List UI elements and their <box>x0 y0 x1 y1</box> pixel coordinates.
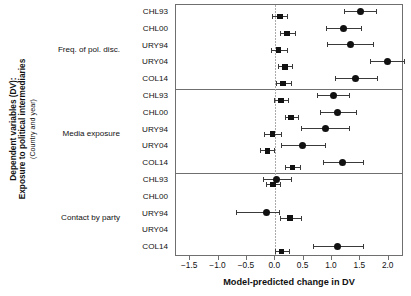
confidence-interval-cap <box>280 182 281 187</box>
row-label-ury04: URY04 <box>120 141 168 150</box>
confidence-interval-cap <box>373 42 374 47</box>
confidence-interval-cap <box>325 143 326 148</box>
panel-label-media-exposure: Media exposure <box>46 129 120 138</box>
forest-plot-figure: Dependent variables (DV): Exposure to po… <box>0 0 411 296</box>
x-axis-tick-label: 1.0 <box>319 260 343 270</box>
x-axis-tick-label: 0.0 <box>262 260 286 270</box>
row-label-chl93: CHL93 <box>120 175 168 184</box>
confidence-interval-cap <box>278 64 279 69</box>
estimate-marker-square <box>276 47 282 53</box>
x-axis-tick-label: −1.0 <box>206 260 230 270</box>
confidence-interval-cap <box>287 48 288 53</box>
estimate-marker-square <box>288 115 294 121</box>
estimate-marker-circle <box>340 25 347 32</box>
confidence-interval-cap <box>263 177 264 182</box>
estimate-marker-circle <box>334 109 341 116</box>
confidence-interval-cap <box>279 210 280 215</box>
confidence-interval-cap <box>301 126 302 131</box>
confidence-interval-cap <box>266 182 267 187</box>
row-label-ury94: URY94 <box>120 41 168 50</box>
row-label-col14: COL14 <box>120 158 168 167</box>
confidence-interval-cap <box>285 165 286 170</box>
confidence-interval-cap <box>295 31 296 36</box>
row-label-column: CHL93CHL00URY94URY04COL14CHL93CHL00URY94… <box>120 0 172 258</box>
x-axis-tick-label: −1.5 <box>177 260 201 270</box>
estimate-marker-circle <box>352 75 359 82</box>
confidence-interval-cap <box>363 160 364 165</box>
estimate-marker-square <box>279 249 285 255</box>
confidence-interval-cap <box>313 244 314 249</box>
estimate-marker-square <box>277 14 283 20</box>
estimate-marker-circle <box>334 243 341 250</box>
confidence-interval-cap <box>274 148 275 153</box>
panel-label-freq-of-pol-disc: Freq. of pol. disc. <box>46 45 120 54</box>
x-axis-tick-label: 0.5 <box>291 260 315 270</box>
confidence-interval-cap <box>291 81 292 86</box>
confidence-interval-cap <box>298 115 299 120</box>
row-label-chl93: CHL93 <box>120 7 168 16</box>
plot-area <box>175 4 403 256</box>
confidence-interval-cap <box>370 59 371 64</box>
confidence-interval-cap <box>335 76 336 81</box>
x-axis-tick-label: 1.5 <box>347 260 371 270</box>
x-axis-caption-clipped <box>175 290 403 296</box>
confidence-interval-cap <box>317 93 318 98</box>
row-label-chl00: CHL00 <box>120 192 168 201</box>
estimate-marker-square <box>290 165 296 171</box>
confidence-interval-cap <box>291 177 292 182</box>
confidence-interval-cap <box>363 244 364 249</box>
estimate-marker-square <box>280 81 286 87</box>
x-axis-title: Model-predicted change in DV <box>175 277 403 287</box>
x-axis: −1.5−1.0−0.50.00.51.01.52.0 <box>175 256 403 262</box>
confidence-interval-cap <box>275 249 276 254</box>
estimate-marker-circle <box>357 8 364 15</box>
estimate-marker-square <box>270 131 276 137</box>
x-axis-tick-label: 2.0 <box>376 260 400 270</box>
estimate-marker-square <box>278 98 284 104</box>
confidence-interval-cap <box>344 9 345 14</box>
estimate-marker-circle <box>384 58 391 65</box>
y-axis-title-line2: Exposure to political intermediaries <box>18 59 27 200</box>
confidence-interval-cap <box>274 98 275 103</box>
confidence-interval-cap <box>285 115 286 120</box>
confidence-interval-cap <box>326 26 327 31</box>
y-axis-title: Dependent variables (DV): Exposure to po… <box>0 0 46 258</box>
confidence-interval-cap <box>356 110 357 115</box>
x-axis-tick-label: −0.5 <box>234 260 258 270</box>
estimate-marker-circle <box>347 41 354 48</box>
confidence-interval-cap <box>281 143 282 148</box>
confidence-interval-cap <box>327 42 328 47</box>
confidence-interval-cap <box>323 160 324 165</box>
confidence-interval-cap <box>361 26 362 31</box>
confidence-interval-cap <box>349 93 350 98</box>
confidence-interval-cap <box>280 31 281 36</box>
estimate-marker-circle <box>322 125 329 132</box>
row-label-ury04: URY04 <box>120 57 168 66</box>
estimate-marker-square <box>265 148 271 154</box>
row-label-chl93: CHL93 <box>120 91 168 100</box>
confidence-interval-cap <box>260 148 261 153</box>
estimate-marker-square <box>282 64 288 70</box>
estimate-marker-circle <box>339 159 346 166</box>
confidence-interval-cap <box>320 110 321 115</box>
estimate-marker-circle <box>263 209 270 216</box>
zero-reference-line <box>275 5 276 255</box>
row-label-chl00: CHL00 <box>120 24 168 33</box>
panel-separator <box>176 89 402 90</box>
confidence-interval-cap <box>300 165 301 170</box>
row-label-ury04: URY04 <box>120 225 168 234</box>
confidence-interval-cap <box>288 98 289 103</box>
confidence-interval-cap <box>276 81 277 86</box>
confidence-interval-cap <box>271 48 272 53</box>
confidence-interval-cap <box>280 216 281 221</box>
panel-label-column: Freq. of pol. disc.Media exposureContact… <box>46 4 120 256</box>
y-axis-subtitle: (Country and year) <box>29 59 37 200</box>
confidence-interval-bar <box>236 212 279 213</box>
confidence-interval-cap <box>376 9 377 14</box>
confidence-interval-cap <box>281 132 282 137</box>
confidence-interval-cap <box>404 59 405 64</box>
estimate-marker-circle <box>330 92 337 99</box>
row-label-ury94: URY94 <box>120 125 168 134</box>
confidence-interval-cap <box>349 126 350 131</box>
confidence-interval-cap <box>301 216 302 221</box>
